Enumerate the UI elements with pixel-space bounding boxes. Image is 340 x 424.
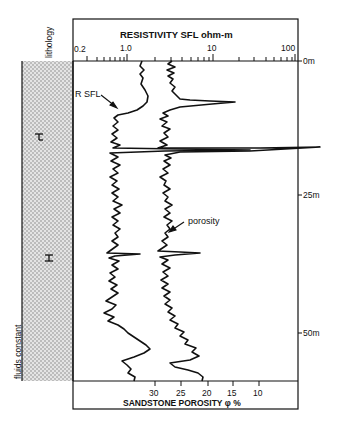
depth-tick-marks — [298, 61, 302, 333]
depth-label-0m: 0m — [303, 56, 315, 66]
resistivity-tick-100: 100 — [281, 43, 295, 53]
porosity-axis-title: SANDSTONE POROSITY φ % — [123, 398, 241, 408]
porosity-tick-15: 15 — [227, 388, 237, 398]
porosity-tick-25: 25 — [176, 388, 186, 398]
porosity-tick-10: 10 — [253, 388, 263, 398]
porosity-tick-20: 20 — [202, 388, 212, 398]
fluids-constant-label: fluids constant — [13, 324, 23, 379]
porosity-tick-30: 30 — [149, 388, 159, 398]
r-sfl-annotation: R SFL — [75, 89, 101, 99]
lithology-label: lithology — [44, 26, 54, 58]
resistivity-sfl-curve — [104, 61, 250, 381]
resistivity-axis-title: RESISTIVITY SFL ohm-m — [120, 29, 233, 40]
depth-label-25m: 25m — [303, 190, 320, 200]
log-panel-frame — [73, 19, 298, 409]
lithology-column — [22, 61, 73, 381]
depth-label-50m: 50m — [303, 328, 320, 338]
well-log-diagram: lithology fluids constant RESISTIVITY SF… — [0, 0, 340, 424]
resistivity-tick-1: 1.0 — [120, 43, 132, 53]
porosity-annotation: porosity — [188, 216, 220, 226]
porosity-arrow-icon — [169, 222, 184, 232]
resistivity-tick-0.2: 0.2 — [74, 44, 86, 54]
resistivity-tick-10: 10 — [207, 43, 217, 53]
porosity-tick-marks — [155, 381, 259, 386]
porosity-curve — [158, 61, 320, 381]
resistivity-tick-marks — [87, 54, 295, 61]
r-sfl-arrow-icon — [101, 95, 117, 108]
